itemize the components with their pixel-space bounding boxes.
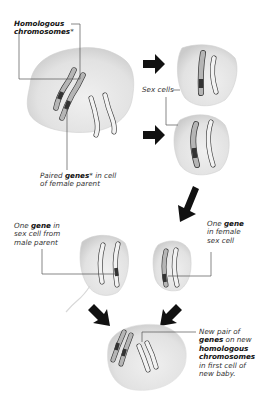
arrow-down-left: [178, 186, 199, 222]
label-female-gene: One gene in female sex cell: [207, 220, 244, 245]
female-parent-cell: [27, 48, 133, 135]
label-male-gene: One gene in sex cell from male parent: [14, 222, 60, 247]
female-sex-cell: [153, 241, 191, 291]
label-sex-cells: Sex cells: [142, 86, 174, 94]
label-new-pair: New pair of genes on new homologous chro…: [199, 328, 255, 378]
arrow-right-lower: [143, 125, 165, 145]
label-homologous: Homologous chromosomes*: [14, 20, 74, 37]
arrow-male-to-baby: [88, 304, 110, 326]
baby-cell: [107, 324, 186, 390]
sex-cell-lower: [174, 115, 229, 175]
arrow-female-to-baby: [160, 304, 182, 326]
sex-cell-upper: [177, 45, 237, 106]
label-paired-genes: Paired genes* in cell of female parent: [40, 172, 116, 189]
sperm-tail: [66, 286, 90, 312]
arrow-right-upper: [143, 54, 165, 74]
sex-cells-leader-2: [166, 97, 178, 125]
